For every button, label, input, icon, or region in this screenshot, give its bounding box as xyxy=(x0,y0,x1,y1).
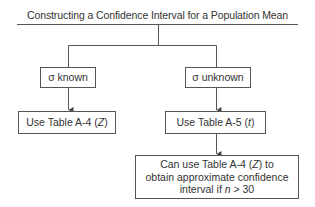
node-use-table-a4: Use Table A-4 (Z) xyxy=(18,111,116,134)
note-line-1: Can use Table A-4 (Z) to xyxy=(160,158,274,171)
label-prefix: Use Table A-4 ( xyxy=(26,116,98,128)
label-suffix: ) xyxy=(251,116,255,128)
note-line-1-prefix: Can use Table A-4 ( xyxy=(160,158,252,170)
label-suffix: ) xyxy=(104,116,108,128)
note-line-3: interval if n > 30 xyxy=(180,183,254,196)
note-line-2: obtain approximate confidence xyxy=(145,171,288,184)
label-prefix: Use Table A-5 ( xyxy=(176,116,248,128)
node-sigma-unknown: σ unknown xyxy=(185,67,251,88)
node-approx-note: Can use Table A-4 (Z) to obtain approxim… xyxy=(135,155,299,199)
node-sigma-known-label: σ known xyxy=(48,71,88,84)
note-line-1-suffix: ) to xyxy=(259,158,274,170)
note-line-3-suffix: > 30 xyxy=(231,183,255,195)
node-sigma-unknown-label: σ unknown xyxy=(192,71,243,84)
node-use-table-a5-label: Use Table A-5 (t) xyxy=(176,116,254,129)
note-line-3-prefix: interval if xyxy=(180,183,225,195)
node-use-table-a5: Use Table A-5 (t) xyxy=(165,111,266,134)
node-sigma-known: σ known xyxy=(40,67,96,88)
node-use-table-a4-label: Use Table A-4 (Z) xyxy=(26,116,108,129)
